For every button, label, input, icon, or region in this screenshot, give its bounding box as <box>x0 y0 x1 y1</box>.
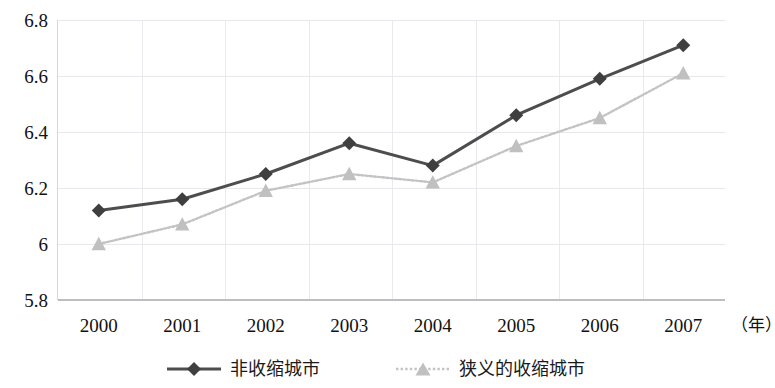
y-axis-tick-label: 6 <box>2 235 48 254</box>
x-axis-tick-label: 2005 <box>497 316 535 335</box>
x-axis-unit-label: （年） <box>731 317 775 334</box>
x-axis-tick-label: 2006 <box>581 316 619 335</box>
y-axis-tick-label: 6.8 <box>2 11 48 30</box>
gridline-horizontal <box>58 300 725 301</box>
legend-item-non-shrinking: 非收缩城市 <box>165 360 320 378</box>
gridline-vertical <box>142 20 143 299</box>
gridline-vertical <box>643 20 644 299</box>
chart-legend: 非收缩城市 狭义的收缩城市 <box>0 352 749 386</box>
legend-label-shrinking: 狭义的收缩城市 <box>459 360 585 378</box>
y-axis-tick-label: 6.6 <box>2 67 48 86</box>
gridline-vertical <box>225 20 226 299</box>
gridline-vertical <box>392 20 393 299</box>
legend-label-non-shrinking: 非收缩城市 <box>230 360 320 378</box>
y-axis-tick-label: 6.2 <box>2 179 48 198</box>
x-axis-tick-label: 2004 <box>414 316 452 335</box>
gridline-vertical <box>309 20 310 299</box>
legend-marker-triangle-icon <box>394 360 452 378</box>
legend-item-shrinking: 狭义的收缩城市 <box>394 360 585 378</box>
y-axis-tick-label: 6.4 <box>2 123 48 142</box>
x-axis-tick-label: 2002 <box>247 316 285 335</box>
plot-area <box>57 20 725 300</box>
gridline-vertical <box>559 20 560 299</box>
x-axis-tick-label: 2001 <box>163 316 201 335</box>
x-axis-tick-label: 2000 <box>80 316 118 335</box>
legend-marker-diamond-icon <box>165 360 223 378</box>
x-axis-tick-label: 2003 <box>330 316 368 335</box>
x-axis-tick-label: 2007 <box>664 316 702 335</box>
gridline-vertical <box>476 20 477 299</box>
y-axis-tick-label: 5.8 <box>2 291 48 310</box>
